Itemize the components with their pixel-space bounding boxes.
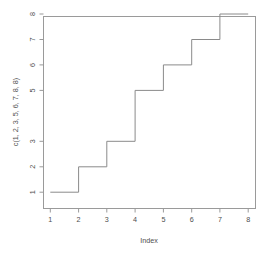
x-tick-label-7: 7 xyxy=(218,215,222,224)
x-tick-label-2: 2 xyxy=(77,215,81,224)
x-axis-title: Index xyxy=(140,236,158,245)
y-tick-label-5: 5 xyxy=(28,88,37,92)
x-tick-label-5: 5 xyxy=(161,215,165,224)
y-tick-label-2: 2 xyxy=(28,165,37,169)
plot-canvas: 1 2 3 5 6 7 8 1 2 3 4 5 6 7 xyxy=(0,0,275,259)
x-tick-label-4: 4 xyxy=(133,215,137,224)
y-tick-label-6: 6 xyxy=(28,63,37,67)
x-tick-label-1: 1 xyxy=(48,215,52,224)
x-tick-label-6: 6 xyxy=(190,215,194,224)
y-tick-label-1: 1 xyxy=(28,190,37,194)
x-tick-label-3: 3 xyxy=(105,215,109,224)
y-tick-label-8: 8 xyxy=(28,12,37,16)
y-tick-label-7: 7 xyxy=(28,38,37,42)
y-tick-label-3: 3 xyxy=(28,139,37,143)
y-axis-title: c(1, 2, 3, 5, 6, 7, 8, 8) xyxy=(11,78,20,146)
x-tick-label-8: 8 xyxy=(246,215,250,224)
figure-background xyxy=(0,0,275,259)
r-plot-figure: 1 2 3 5 6 7 8 1 2 3 4 5 6 7 xyxy=(0,0,275,259)
